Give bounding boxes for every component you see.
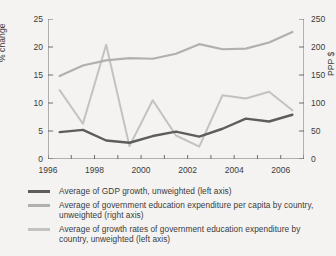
right-axis-tick-label: 250	[311, 14, 335, 24]
left-axis-tick-label: 25	[21, 14, 43, 24]
legend-label: Average of government education expendit…	[59, 200, 320, 221]
x-axis-tick-label: 2004	[214, 165, 254, 175]
legend-item[interactable]: Average of GDP growth, unweighted (left …	[28, 186, 320, 197]
left-axis-title: % change	[0, 23, 7, 62]
legend-swatch-icon	[28, 190, 50, 193]
legend-swatch-icon	[28, 228, 50, 231]
chart-legend: Average of GDP growth, unweighted (left …	[28, 186, 320, 248]
legend-item[interactable]: Average of growth rates of government ed…	[28, 224, 320, 245]
x-axis-tick-label: 2002	[168, 165, 208, 175]
x-axis-tick-label: 1996	[28, 165, 68, 175]
right-axis-tick-label: 150	[311, 70, 335, 80]
series-line-2	[60, 32, 293, 76]
left-axis-tick-label: 0	[21, 154, 43, 164]
right-axis-tick-label: 50	[311, 126, 335, 136]
x-axis-tick-label: 2006	[261, 165, 301, 175]
left-axis-tick-label: 20	[21, 42, 43, 52]
right-axis-tick-label: 0	[311, 154, 335, 164]
x-axis-tick-label: 2000	[121, 165, 161, 175]
series-line-1	[60, 115, 293, 143]
legend-swatch-icon	[28, 204, 50, 207]
plot-area	[48, 19, 304, 159]
legend-item[interactable]: Average of government education expendit…	[28, 200, 320, 221]
left-axis-tick-label: 5	[21, 126, 43, 136]
line-chart-svg	[48, 19, 304, 159]
right-axis-tick-label: 200	[311, 42, 335, 52]
x-axis-tick-label: 1998	[75, 165, 115, 175]
right-axis-tick-label: 100	[311, 98, 335, 108]
legend-label: Average of growth rates of government ed…	[59, 224, 320, 245]
left-axis-tick-label: 10	[21, 98, 43, 108]
left-axis-tick-label: 15	[21, 70, 43, 80]
legend-label: Average of GDP growth, unweighted (left …	[59, 186, 232, 197]
